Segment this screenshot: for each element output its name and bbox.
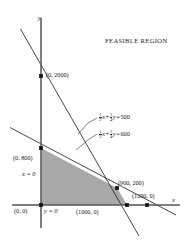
- equation-label-500: 12x + 14y = 500: [99, 113, 130, 123]
- leader-line-600: [76, 134, 97, 150]
- point-marker-origin: [39, 203, 43, 207]
- leader-line-500: [78, 118, 97, 134]
- diagram-title: FEASIBLE REGION: [105, 38, 168, 45]
- rhs-value-500: 500: [120, 113, 130, 120]
- point-marker-900-200: [115, 186, 119, 190]
- point-label-0-0: (0, 0): [14, 208, 27, 214]
- feasible-region-diagram: FEASIBLE REGION y x x = 0 y = 0 (0, 2000…: [0, 0, 189, 245]
- equation-label-600: 12x + 34y = 600: [99, 130, 130, 140]
- fraction-one-half-500: 12: [99, 113, 102, 123]
- point-marker-x1200: [145, 203, 149, 207]
- y-equals-zero-label: y = 0: [44, 208, 58, 214]
- point-label-0-800: (0, 800): [13, 155, 33, 161]
- point-label-1200-0: (1200, 0): [132, 193, 155, 199]
- point-marker-y2000: [39, 74, 43, 78]
- fraction-one-quarter-500: 14: [110, 113, 113, 123]
- fraction-three-quarters-600: 34: [110, 130, 113, 140]
- plus-sign-500: +: [106, 113, 110, 120]
- fraction-one-half-600: 12: [99, 130, 102, 140]
- rhs-value-600: 600: [120, 130, 130, 137]
- feasible-region-shape: [41, 148, 127, 205]
- point-label-900-200: (900, 200): [118, 180, 144, 186]
- point-label-1000-0: (1000, 0): [76, 209, 99, 215]
- x-axis-label: x: [172, 197, 175, 204]
- point-marker-x1000: [125, 203, 129, 207]
- point-marker-y800: [39, 146, 43, 150]
- plus-sign-600: +: [106, 130, 110, 137]
- y-axis-label: y: [38, 15, 41, 22]
- x-equals-zero-label: x = 0: [22, 171, 36, 177]
- point-label-0-2000: (0, 2000): [46, 72, 69, 78]
